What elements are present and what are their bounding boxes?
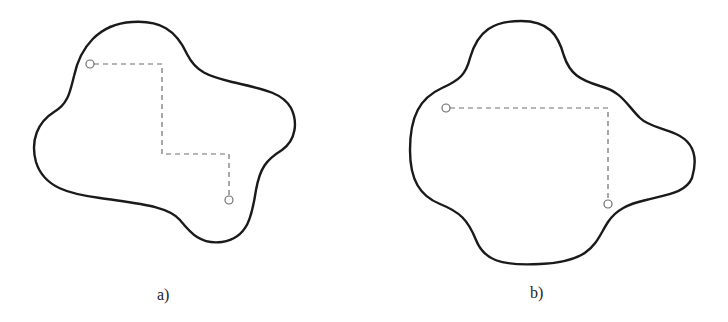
blob-outline-a <box>34 22 295 243</box>
blob-outline-b <box>410 21 695 264</box>
start-point-marker-a <box>86 60 94 68</box>
diagram-canvas <box>0 0 728 322</box>
panel-label-a: a) <box>157 286 169 304</box>
dashed-path-a <box>94 64 229 196</box>
dashed-path-b <box>450 108 608 200</box>
panel-b <box>410 21 695 264</box>
end-point-marker-a <box>225 196 233 204</box>
end-point-marker-b <box>604 200 612 208</box>
start-point-marker-b <box>442 104 450 112</box>
panel-label-b: b) <box>530 284 543 302</box>
panel-a <box>34 22 295 243</box>
